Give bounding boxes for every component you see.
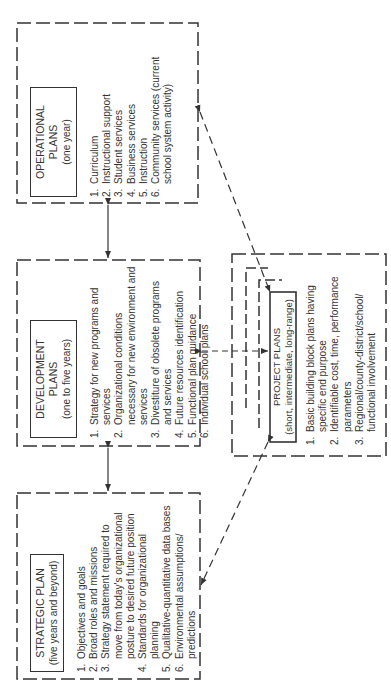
strategic-subtitle: (five years and beyond) (47, 559, 60, 667)
list-item: 6.Individual school plans (199, 266, 211, 438)
development-subtitle: (one to five years) (60, 325, 73, 433)
development-list: 1.Strategy for new programs and services… (89, 266, 211, 438)
list-item: 4.Business services (126, 29, 138, 197)
list-item: 3.Strategy statement required to move fr… (100, 500, 137, 672)
list-item: 3.Divestiture of obsolete programs and s… (150, 266, 174, 438)
strategic-list: 1.Objectives and goals 2.Broad roles and… (76, 500, 198, 672)
list-item: 1.Basic building block plans having spec… (305, 265, 329, 445)
project-subtitle: (short, intermediate, long-range) (283, 293, 295, 441)
operational-subtitle: (one year) (60, 92, 73, 192)
project-list: 1.Basic building block plans having spec… (305, 265, 378, 445)
list-item: 2.Organizational conditions necessary fo… (113, 266, 150, 438)
list-item: 3.Student services (113, 29, 125, 197)
operational-list: 1.Curriculum 2.Instructional support 3.S… (89, 29, 174, 197)
list-item: 3.Regional/county-district/school/ funct… (354, 265, 378, 445)
list-item: 4.Standards for organizational planning (137, 500, 161, 672)
development-title-box: DEVELOPMENT PLANS (one to five years) (30, 320, 77, 438)
list-item: 6.Community services (current school sys… (150, 29, 174, 197)
development-plans-box: DEVELOPMENT PLANS (one to five years) 1.… (30, 266, 195, 438)
strategic-title: STRATEGIC PLAN (34, 559, 47, 667)
list-item: 2.Instructional support (101, 29, 113, 197)
operational-title: OPERATIONAL PLANS (34, 92, 60, 192)
project-title: PROJECT PLANS (271, 293, 283, 441)
arrow-operational-project (200, 112, 270, 292)
project-sheet-back (246, 268, 268, 408)
strategic-plan-box: STRATEGIC PLAN (five years and beyond) 1… (30, 500, 195, 672)
list-item: 4.Future resources identification (174, 266, 186, 438)
list-item: 2.Identifiable cost, time, performance p… (329, 265, 353, 445)
strategic-title-box: STRATEGIC PLAN (five years and beyond) (30, 554, 64, 672)
list-item: 2.Broad roles and missions (88, 500, 100, 672)
project-title-box: PROJECT PLANS (short, intermediate, long… (271, 293, 296, 441)
list-item: 5.Instruction (138, 29, 150, 197)
arrow-project-strategic (201, 442, 268, 585)
operational-plans-box: OPERATIONAL PLANS (one year) 1.Curriculu… (30, 29, 195, 197)
list-item: 1.Curriculum (89, 29, 101, 197)
list-item: 5.Qualitative-quantitative data bases (161, 500, 173, 672)
list-item: 1.Objectives and goals (76, 500, 88, 672)
list-item: 5.Functional plan guidance (187, 266, 199, 438)
operational-title-box: OPERATIONAL PLANS (one year) (30, 87, 77, 197)
list-item: 1.Strategy for new programs and services (89, 266, 113, 438)
list-item: 6.Environmental assumptions/ predictions (174, 500, 198, 672)
development-title: DEVELOPMENT PLANS (34, 325, 60, 433)
project-plans-list-panel: 1.Basic building block plans having spec… (305, 265, 385, 445)
